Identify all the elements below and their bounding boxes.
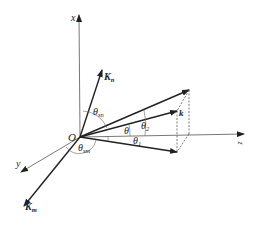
z-axis-label: z [236, 141, 244, 144]
vector-diagram: x y z O Kn Km k θsn θsm θ θ1 θ2 [0, 0, 254, 225]
z-axis [80, 134, 244, 137]
x-axis-label: x [71, 13, 75, 23]
projection-lines [177, 90, 189, 152]
km-vector [24, 137, 80, 206]
theta-sm-label: θsm [78, 143, 90, 155]
theta-sn-label: θsn [93, 107, 104, 119]
x-axis [79, 15, 80, 137]
theta-2-label: θ2 [141, 121, 149, 133]
kn-vector [80, 70, 102, 137]
km-label: Km [25, 202, 37, 214]
k-label: k [179, 109, 184, 118]
y-axis-label: y [16, 159, 20, 169]
theta-1-label: θ1 [133, 136, 141, 148]
theta-label: θ [124, 126, 129, 136]
kn-label: Kn [104, 72, 114, 84]
origin-label: O [68, 132, 76, 143]
diagram-drawing [0, 0, 254, 225]
